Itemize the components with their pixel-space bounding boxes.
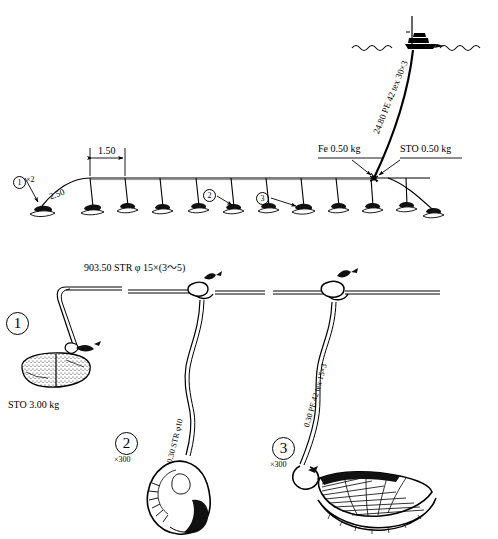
- dropper-units: [30, 202, 444, 218]
- item-3-multiplier: ×300: [270, 461, 287, 469]
- figure-canvas: 1 ×2 2.50 1.50 Fe 0.50 kg STO 0.50 kg 24…: [0, 0, 498, 539]
- item-2-shell: [147, 461, 210, 534]
- detail-marker-2: 2: [115, 432, 138, 455]
- anchor-qty-label: ×2: [26, 176, 35, 184]
- detail-panel: [22, 268, 440, 534]
- overview-marker-1: 1: [13, 176, 26, 189]
- detail-mainline: [66, 287, 440, 294]
- overview-marker-3: 3: [256, 192, 269, 205]
- float-stone-label: STO 0.50 kg: [400, 144, 451, 154]
- item-1-stone: [22, 353, 90, 387]
- overview-marker-2: 2: [203, 189, 216, 202]
- detail-mainline-label: 903.50 STR φ 15×(3～5): [84, 263, 185, 273]
- right-anchor-unit: [423, 208, 444, 218]
- item-3-hook: [293, 466, 319, 489]
- item-2-multiplier: ×300: [114, 456, 131, 464]
- spacing-label: 1.50: [98, 146, 116, 156]
- item-3-scallop: [318, 472, 436, 534]
- item-3-knot: [321, 268, 358, 300]
- left-anchor-unit: [30, 206, 55, 217]
- fishing-boat-icon: [405, 16, 444, 49]
- item-1-branch: [57, 287, 78, 348]
- detail-marker-3: 3: [272, 437, 295, 460]
- item-2-branch: [185, 300, 204, 456]
- marker-2-leader: [217, 196, 232, 205]
- detail-marker-1: 1: [6, 312, 29, 335]
- sinker-label: Fe 0.50 kg: [318, 144, 361, 154]
- callout-leaders: [318, 158, 462, 175]
- dropper-lines: [90, 178, 407, 207]
- overview-panel: [25, 16, 480, 218]
- schematic-drawing: [0, 0, 498, 539]
- item-1-weight-label: STO 3.00 kg: [8, 400, 59, 410]
